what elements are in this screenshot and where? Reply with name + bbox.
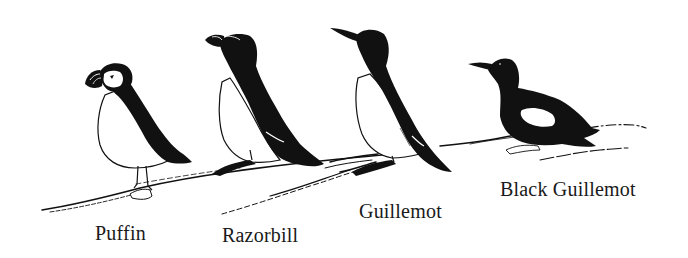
auk-illustration: Puffin Razorbill Guillemot Black Guillem…	[0, 0, 688, 258]
black-guillemot-label: Black Guillemot	[500, 178, 636, 201]
guillemot-label: Guillemot	[359, 200, 442, 223]
illustration-canvas	[0, 0, 688, 258]
puffin-label: Puffin	[95, 222, 146, 245]
puffin-figure	[85, 63, 192, 199]
guillemot-figure	[330, 28, 452, 176]
razorbill-label: Razorbill	[222, 224, 298, 247]
razorbill-figure	[205, 34, 324, 176]
